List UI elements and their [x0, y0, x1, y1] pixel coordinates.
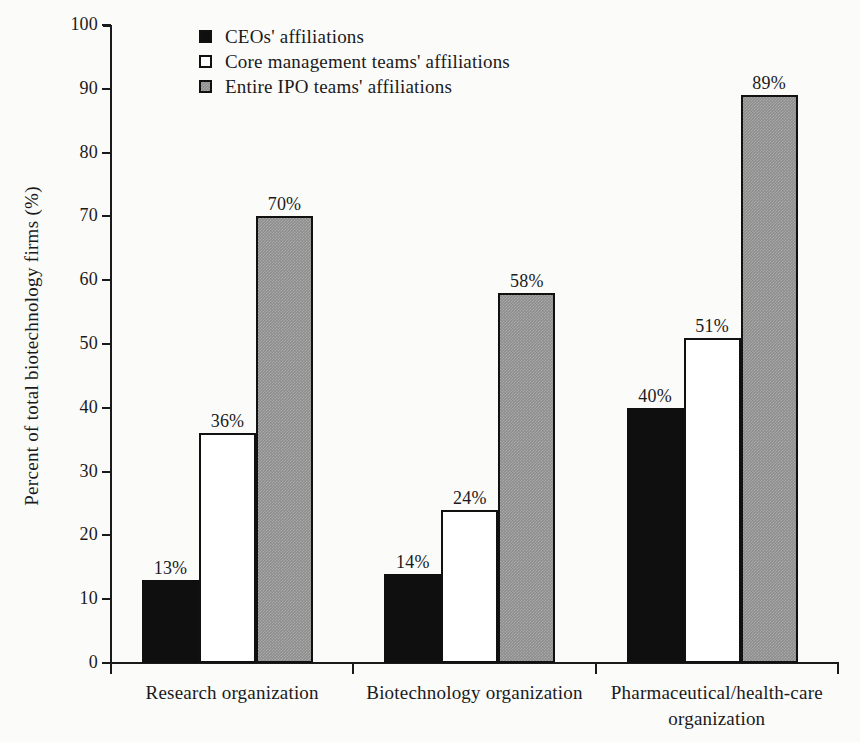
bar-value-label: 24%	[453, 488, 487, 508]
y-axis-tick-label: 60	[0, 270, 98, 288]
bar[interactable]: 89%	[741, 95, 798, 663]
y-axis-tick-label-text: 80	[52, 143, 98, 161]
y-axis-tick-label-text: 70	[52, 206, 98, 224]
bars-layer: 13%36%70%14%24%58%40%51%89%	[111, 25, 838, 663]
x-axis-category-label: Biotechnology organization	[343, 680, 605, 706]
chart-figure: CEOs' affiliations Core management teams…	[0, 0, 860, 742]
y-axis-tick-mark	[102, 24, 111, 26]
y-axis-tick-label-text: 60	[52, 270, 98, 288]
bar[interactable]: 40%	[627, 408, 684, 663]
bar-value-label: 36%	[211, 411, 245, 431]
y-axis-tick-label: 0	[0, 653, 98, 671]
y-axis-tick-label-text: 10	[52, 589, 98, 607]
x-axis-group-tick	[595, 663, 597, 674]
y-axis-tick-mark	[102, 343, 111, 345]
bar-value-label: 14%	[396, 552, 430, 572]
x-axis-group-tick	[837, 663, 839, 674]
y-axis-tick-label: 50	[0, 334, 98, 352]
y-axis-tick-label-text: 20	[52, 525, 98, 543]
y-axis-tick-mark	[102, 152, 111, 154]
bar[interactable]: 24%	[441, 510, 498, 663]
plot-area: 13%36%70%14%24%58%40%51%89%	[111, 25, 838, 663]
y-axis-tick-mark	[102, 471, 111, 473]
y-axis-tick-label: 20	[0, 525, 98, 543]
y-axis-tick-mark	[102, 598, 111, 600]
bar-value-label: 89%	[752, 73, 786, 93]
x-axis-group-tick	[352, 663, 354, 674]
y-axis-tick-label-text: 90	[52, 79, 98, 97]
y-axis-tick-label: 40	[0, 398, 98, 416]
bar-value-label: 70%	[268, 194, 302, 214]
y-axis-tick-label: 30	[0, 462, 98, 480]
y-axis-tick-label-text: 50	[52, 334, 98, 352]
bar-value-label: 40%	[638, 386, 672, 406]
y-axis-tick-mark	[102, 88, 111, 90]
y-axis-tick-label-text: 30	[52, 462, 98, 480]
y-axis-tick-mark	[102, 215, 111, 217]
x-axis-group-tick	[110, 663, 112, 674]
bar[interactable]: 14%	[384, 574, 441, 663]
bar-value-label: 51%	[695, 316, 729, 336]
bar[interactable]: 58%	[498, 293, 555, 663]
bar[interactable]: 13%	[142, 580, 199, 663]
x-axis-category-label: Pharmaceutical/health-care organization	[586, 680, 848, 732]
y-axis-tick-label: 90	[0, 79, 98, 97]
y-axis-tick-mark	[102, 534, 111, 536]
y-axis-tick-label-text: 40	[52, 398, 98, 416]
bar[interactable]: 70%	[256, 216, 313, 663]
x-axis-category-label: Research organization	[101, 680, 363, 706]
bar-value-label: 58%	[510, 271, 544, 291]
y-axis-tick-label: 100	[0, 15, 98, 33]
bar-value-label: 13%	[154, 558, 188, 578]
y-axis-tick-label: 80	[0, 143, 98, 161]
bar[interactable]: 51%	[684, 338, 741, 663]
y-axis-tick-label-text: 100	[52, 15, 98, 33]
y-axis-tick-mark	[102, 279, 111, 281]
y-axis-tick-label: 70	[0, 206, 98, 224]
y-axis-tick-label: 10	[0, 589, 98, 607]
y-axis-tick-label-text: 0	[52, 653, 98, 671]
y-axis-tick-mark	[102, 407, 111, 409]
bar[interactable]: 36%	[199, 433, 256, 663]
